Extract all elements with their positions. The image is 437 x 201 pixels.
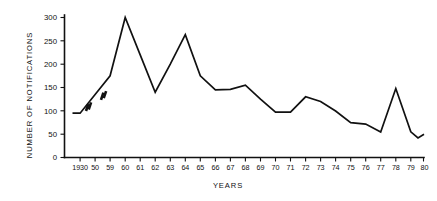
y-tick-label: 100 (44, 107, 58, 116)
x-tick-label: 71 (287, 163, 295, 172)
x-tick-label: 67 (227, 163, 235, 172)
x-tick-label: 69 (257, 163, 265, 172)
x-tick-label: 70 (272, 163, 280, 172)
x-tick-label: 64 (181, 163, 189, 172)
x-tick-label: 74 (332, 163, 340, 172)
y-tick-label: 50 (48, 130, 57, 139)
chart-figure: 0 50 100 150 200 250 300 (0, 0, 437, 201)
x-tick-label: 62 (151, 163, 159, 172)
x-tick-label: 72 (302, 163, 310, 172)
x-axis-tick-labels: 1930 50 59 60 61 62 63 64 65 66 67 68 69… (72, 163, 428, 172)
x-tick-label: 68 (242, 163, 250, 172)
y-tick-label: 300 (44, 13, 58, 22)
x-tick-label: 66 (212, 163, 220, 172)
y-tick-label: 150 (44, 83, 58, 92)
y-tick-label: 250 (44, 37, 58, 46)
y-axis-title: NUMBER OF NOTIFICATIONS (25, 32, 34, 158)
x-tick-label: 80 (421, 163, 429, 172)
x-tick-label: 79 (407, 163, 415, 172)
x-tick-label: 1930 (72, 163, 88, 172)
x-tick-label: 65 (196, 163, 204, 172)
x-tick-label: 61 (136, 163, 144, 172)
x-tick-label: 77 (377, 163, 385, 172)
x-tick-label: 63 (166, 163, 174, 172)
y-tick-label: 0 (53, 153, 58, 162)
x-tick-label: 60 (121, 163, 129, 172)
y-axis-tick-labels: 0 50 100 150 200 250 300 (44, 13, 58, 162)
x-tick-label: 73 (317, 163, 325, 172)
x-tick-label: 59 (106, 163, 114, 172)
x-axis-title: YEARS (213, 181, 243, 190)
x-tick-label: 50 (91, 163, 99, 172)
notifications-line-chart: 0 50 100 150 200 250 300 (0, 0, 437, 201)
x-tick-label: 78 (392, 163, 400, 172)
x-tick-label: 75 (347, 163, 355, 172)
x-tick-label: 76 (362, 163, 370, 172)
notifications-data-line (73, 18, 425, 139)
y-tick-label: 200 (44, 60, 58, 69)
